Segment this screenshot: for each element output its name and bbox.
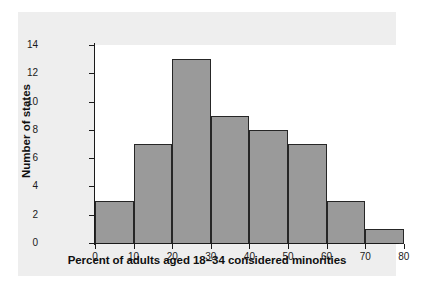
y-tick-mark [89, 45, 94, 46]
bar-bin-0-10 [95, 201, 134, 244]
x-tick-mark [172, 244, 173, 249]
bar-bin-60-70 [327, 201, 366, 244]
x-tick-mark [249, 244, 250, 249]
figure-panel: 0 2 4 6 8 10 12 14 0 10 20 30 40 50 60 7… [18, 12, 396, 276]
y-tick-mark [89, 130, 94, 131]
bar-bin-10-20 [134, 144, 173, 244]
bar-bin-70-80 [365, 229, 404, 244]
x-tick-mark [404, 244, 405, 249]
x-tick-mark [211, 244, 212, 249]
bar-bin-50-60 [288, 144, 327, 244]
x-tick-mark [327, 244, 328, 249]
bar-bin-20-30 [172, 59, 211, 244]
bar-bin-30-40 [211, 116, 250, 244]
y-axis-line [94, 43, 95, 245]
histogram-figure: 0 2 4 6 8 10 12 14 0 10 20 30 40 50 60 7… [0, 0, 423, 296]
y-tick-mark [89, 73, 94, 74]
x-tick-mark [134, 244, 135, 249]
x-axis-title: Percent of adults aged 18–34 considered … [18, 254, 396, 266]
y-tick-mark [89, 158, 94, 159]
y-tick-label: 0 [0, 238, 38, 248]
x-axis-line [92, 243, 399, 244]
y-tick-mark [89, 243, 94, 244]
y-tick-label: 14 [0, 40, 38, 50]
y-axis-title: Number of states [19, 76, 33, 186]
y-tick-mark [89, 186, 94, 187]
bar-bin-40-50 [249, 130, 288, 244]
y-tick-mark [89, 215, 94, 216]
x-tick-mark [365, 244, 366, 249]
y-tick-label: 2 [0, 210, 38, 220]
x-tick-mark [95, 244, 96, 249]
y-tick-mark [89, 102, 94, 103]
x-tick-mark [288, 244, 289, 249]
